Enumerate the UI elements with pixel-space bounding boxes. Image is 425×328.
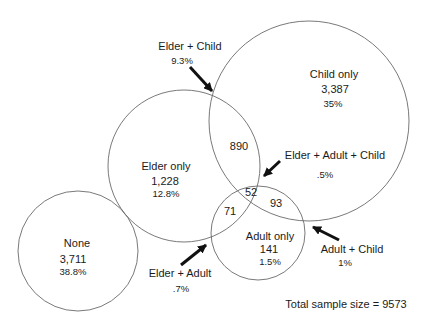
elder-only-label: Elder only — [142, 160, 191, 172]
none-circle — [18, 191, 138, 311]
adult-child-percent: 1% — [338, 257, 352, 268]
elder-adult-child-count: 52 — [245, 186, 257, 198]
elder-only-count: 1,228 — [151, 175, 179, 187]
adult-child-arrow-icon — [313, 227, 339, 240]
elder-adult-arrow-icon — [181, 245, 206, 265]
total-sample-size-note: Total sample size = 9573 — [285, 298, 406, 310]
adult-child-count: 93 — [270, 197, 282, 209]
venn-diagram-canvas: Elder + Child 9.3% 890 Child only 3,387 … — [0, 0, 425, 328]
venn-diagram-figure: Elder + Child 9.3% 890 Child only 3,387 … — [0, 0, 425, 328]
none-percent: 38.8% — [60, 266, 87, 277]
adult-only-percent: 1.5% — [259, 256, 281, 267]
elder-child-percent: 9.3% — [171, 55, 193, 66]
elder-adult-label: Elder + Adult — [149, 267, 212, 279]
none-label: None — [64, 237, 90, 249]
elder-child-arrow-icon — [190, 67, 212, 91]
adult-only-count: 141 — [260, 243, 278, 255]
none-count: 3,711 — [60, 253, 87, 265]
elder-adult-percent: .7% — [173, 283, 190, 294]
adult-child-label: Adult + Child — [321, 243, 384, 255]
elder-child-count: 890 — [230, 140, 248, 152]
elder-adult-child-percent: .5% — [317, 169, 334, 180]
adult-only-label: Adult only — [246, 230, 295, 242]
child-only-percent: 35% — [323, 98, 343, 109]
child-circle — [209, 21, 409, 221]
elder-adult-count: 71 — [224, 205, 236, 217]
elder-child-label: Elder + Child — [158, 40, 221, 52]
elder-adult-child-label: Elder + Adult + Child — [285, 149, 385, 161]
child-only-label: Child only — [310, 68, 359, 80]
child-only-count: 3,387 — [321, 83, 349, 95]
elder-adult-child-arrow-icon — [264, 161, 280, 176]
elder-only-percent: 12.8% — [153, 188, 180, 199]
